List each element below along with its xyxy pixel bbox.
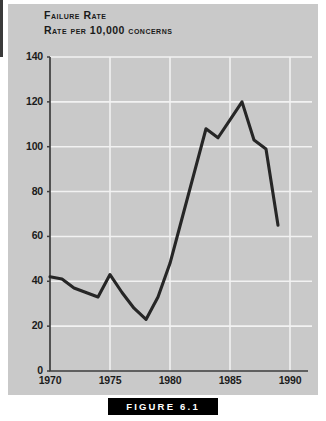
x-axis-tick-label: 1985 <box>210 374 250 386</box>
x-axis-tick-label: 1990 <box>270 374 310 386</box>
x-axis-tick-label: 1980 <box>150 374 190 386</box>
chart-axes <box>50 57 308 371</box>
figure-container: Failure Rate Rate per 10,000 concerns 02… <box>0 0 326 421</box>
x-axis-tick-label: 1970 <box>30 374 70 386</box>
chart-svg <box>0 0 326 421</box>
figure-caption-banner: FIGURE 6.1 <box>108 398 218 415</box>
x-axis-tick-label: 1975 <box>90 374 130 386</box>
figure-caption-text: FIGURE 6.1 <box>126 401 200 412</box>
plot-area: 020406080100120140 19701975198019851990 <box>0 0 326 421</box>
y-axis-tick-label: 120 <box>17 95 43 107</box>
chart-gridlines <box>50 57 312 371</box>
y-axis-tick-label: 40 <box>17 274 43 286</box>
y-axis-tick-label: 140 <box>17 50 43 62</box>
y-axis-tick-label: 100 <box>17 140 43 152</box>
y-axis-tick-label: 80 <box>17 185 43 197</box>
y-axis-tick-label: 60 <box>17 229 43 241</box>
data-series-line <box>50 102 278 320</box>
y-axis-tick-label: 20 <box>17 319 43 331</box>
